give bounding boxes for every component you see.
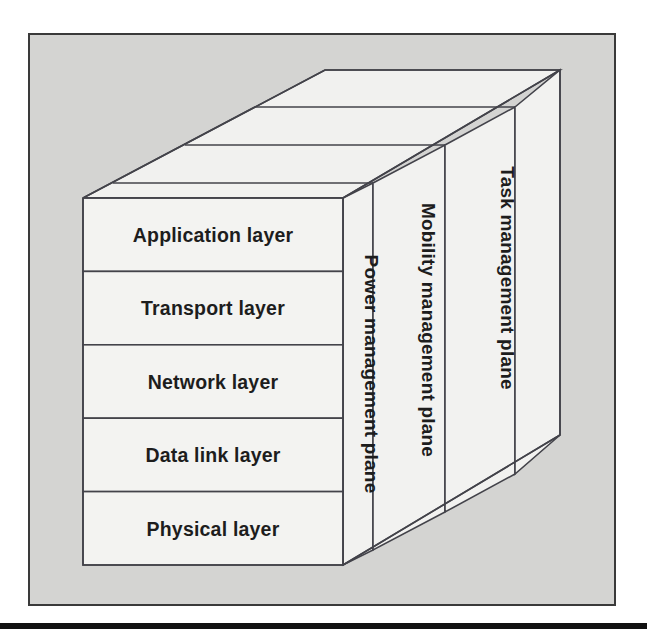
plane-label-power: Power management plane <box>361 255 382 494</box>
layer-label-application: Application layer <box>133 224 294 246</box>
plane-label-task: Task management plane <box>497 166 518 389</box>
page-bottom-rule <box>0 623 647 629</box>
layer-label-transport: Transport layer <box>141 297 285 319</box>
plane-face-outer-right <box>515 70 560 474</box>
plane-label-mobility: Mobility management plane <box>418 203 439 457</box>
layer-label-physical: Physical layer <box>147 518 280 540</box>
layer-label-network: Network layer <box>148 371 279 393</box>
layer-label-datalink: Data link layer <box>145 444 280 466</box>
figure-root: Application layer Transport layer Networ… <box>0 0 647 644</box>
protocol-stack-diagram: Application layer Transport layer Networ… <box>0 0 647 644</box>
